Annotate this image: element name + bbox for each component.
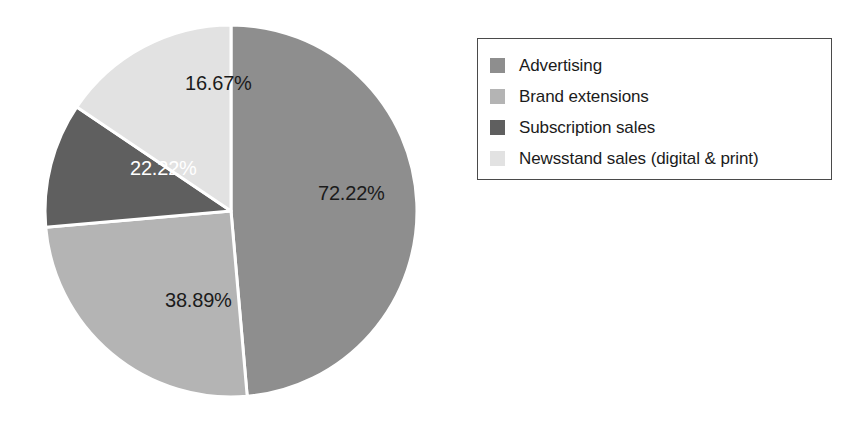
legend-item-label: Advertising <box>519 56 602 76</box>
legend-item-label: Brand extensions <box>519 87 649 107</box>
pie-slice-value-label: 22.22% <box>130 157 197 179</box>
chart-legend: Advertising Brand extensions Subscriptio… <box>477 38 832 180</box>
pie-slice-value-label: 16.67% <box>185 72 252 94</box>
legend-item-advertising[interactable]: Advertising <box>478 50 831 81</box>
pie-chart-figure: 72.22%38.89%22.22%16.67% Advertising Bra… <box>0 0 864 426</box>
legend-swatch-icon <box>490 151 505 166</box>
pie-slice-value-label: 72.22% <box>318 182 385 204</box>
legend-item-subscription-sales[interactable]: Subscription sales <box>478 112 831 143</box>
legend-item-label: Subscription sales <box>519 118 655 138</box>
legend-swatch-icon <box>490 120 505 135</box>
legend-swatch-icon <box>490 58 505 73</box>
pie-slice[interactable] <box>231 25 417 396</box>
legend-item-newsstand-sales[interactable]: Newsstand sales (digital & print) <box>478 143 831 174</box>
pie-chart-graphic: 72.22%38.89%22.22%16.67% <box>38 14 428 412</box>
legend-item-label: Newsstand sales (digital & print) <box>519 149 759 169</box>
legend-swatch-icon <box>490 89 505 104</box>
pie-svg: 72.22%38.89%22.22%16.67% <box>38 14 428 412</box>
pie-slice-value-label: 38.89% <box>165 289 232 311</box>
legend-item-brand-extensions[interactable]: Brand extensions <box>478 81 831 112</box>
